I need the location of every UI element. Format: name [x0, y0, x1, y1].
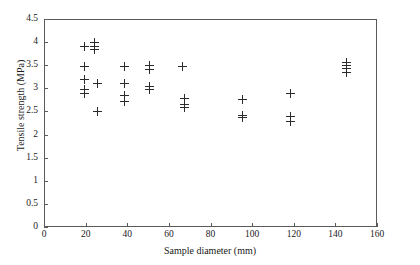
data-point [238, 111, 247, 120]
y-tick-mark [44, 19, 48, 20]
data-point [120, 91, 129, 100]
x-tick-label: 160 [357, 230, 397, 240]
data-point [93, 79, 102, 88]
data-point [286, 112, 295, 121]
data-point [180, 100, 189, 109]
y-tick-mark [44, 227, 48, 228]
x-tick-mark [86, 223, 87, 227]
data-point [342, 61, 351, 70]
data-point [80, 62, 89, 71]
data-point [90, 45, 99, 54]
x-tick-label: 100 [232, 230, 272, 240]
data-point [120, 97, 129, 106]
data-point [120, 62, 129, 71]
data-point [80, 89, 89, 98]
data-point [145, 85, 154, 94]
data-point [80, 85, 89, 94]
data-point [286, 89, 295, 98]
data-point [90, 42, 99, 51]
y-tick-mark [44, 204, 48, 205]
x-tick-mark [127, 223, 128, 227]
y-tick-mark [44, 88, 48, 89]
data-point [90, 38, 99, 47]
y-tick-mark [44, 111, 48, 112]
data-point [238, 113, 247, 122]
x-tick-mark [294, 223, 295, 227]
y-axis-title-wrap: Tensile strength (MPa) [0, 0, 1, 265]
data-point [286, 117, 295, 126]
x-tick-mark [169, 223, 170, 227]
scatter-chart-figure: 00.511.522.533.544.5 0204060801001201401… [0, 0, 420, 265]
x-tick-label: 60 [149, 230, 189, 240]
data-point [80, 75, 89, 84]
x-tick-mark [335, 223, 336, 227]
data-point [342, 68, 351, 77]
y-axis-title: Tensile strength (MPa) [15, 31, 26, 181]
y-tick-mark [44, 135, 48, 136]
x-tick-mark [211, 223, 212, 227]
x-tick-mark [377, 223, 378, 227]
x-axis-title: Sample diameter (mm) [0, 245, 420, 256]
x-tick-label: 120 [274, 230, 314, 240]
data-point [180, 103, 189, 112]
data-point [342, 58, 351, 67]
y-tick-mark [44, 181, 48, 182]
y-tick-mark [44, 65, 48, 66]
data-point [180, 94, 189, 103]
y-tick-mark [44, 42, 48, 43]
data-point [120, 79, 129, 88]
data-point [145, 65, 154, 74]
data-point [238, 95, 247, 104]
data-point [80, 42, 89, 51]
data-point [145, 61, 154, 70]
data-point [145, 82, 154, 91]
y-tick-label-text: 4.5 [4, 14, 38, 24]
x-tick-label: 40 [107, 230, 147, 240]
data-point [93, 107, 102, 116]
x-tick-mark [44, 223, 45, 227]
data-point [342, 64, 351, 73]
y-tick-label-text: 0.5 [4, 199, 38, 209]
plot-area [44, 19, 377, 227]
x-tick-label: 20 [66, 230, 106, 240]
y-tick-mark [44, 158, 48, 159]
data-point [178, 62, 187, 71]
x-tick-mark [252, 223, 253, 227]
x-tick-label: 140 [315, 230, 355, 240]
data-points-layer [45, 20, 376, 226]
x-tick-label: 0 [24, 230, 64, 240]
x-tick-label: 80 [191, 230, 231, 240]
